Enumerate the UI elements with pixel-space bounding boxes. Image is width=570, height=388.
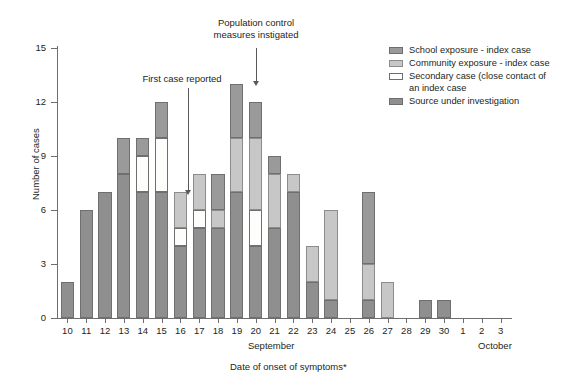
chart-legend: School exposure - index caseCommunity ex… (389, 45, 569, 109)
legend-label: Community exposure - index case (409, 58, 550, 68)
bar-segment-secondary (174, 228, 187, 246)
bar-segment-secondary (136, 156, 149, 192)
bar-26 (362, 192, 375, 318)
x-axis-tick (369, 319, 370, 323)
bar-22 (287, 174, 300, 318)
x-axis-tick (67, 319, 68, 323)
bar-segment-community (362, 264, 375, 300)
bar-segment-source (306, 282, 319, 318)
bar-segment-secondary (155, 138, 168, 192)
bar-segment-source (249, 246, 262, 318)
legend-label: School exposure - index case (409, 45, 531, 55)
bar-segment-source (211, 228, 224, 318)
x-axis-tick (388, 319, 389, 323)
bar-segment-secondary (249, 210, 262, 246)
bar-segment-school (117, 138, 130, 174)
annotation-first-case-line (188, 88, 189, 191)
bar-segment-source (419, 300, 432, 318)
x-axis-tick (425, 319, 426, 323)
bar-15 (155, 102, 168, 318)
bar-segment-school (136, 138, 149, 156)
x-axis-tick (463, 319, 464, 323)
bar-segment-community (174, 192, 187, 228)
bar-segment-source (324, 300, 337, 318)
bar-segment-source (136, 192, 149, 318)
bar-16 (174, 192, 187, 318)
bar-segment-community (287, 174, 300, 192)
legend-swatch-community-icon (389, 60, 403, 67)
x-axis-tick (331, 319, 332, 323)
annotation-pop-control-line2: measures instigated (213, 29, 298, 40)
bar-segment-source (230, 192, 243, 318)
bar-23 (306, 246, 319, 318)
y-axis-tick-label: 6 (6, 204, 46, 215)
legend-swatch-school-icon (389, 47, 403, 54)
x-axis-tick (293, 319, 294, 323)
bar-19 (230, 84, 243, 318)
month-label-september: September (248, 340, 294, 351)
x-axis-title: Date of onset of symptoms* (230, 361, 347, 372)
bar-segment-source (80, 210, 93, 318)
bar-segment-source (174, 246, 187, 318)
x-axis-tick (275, 319, 276, 323)
x-axis-tick (406, 319, 407, 323)
y-axis-tick-label: 3 (6, 258, 46, 269)
x-axis-tick (256, 319, 257, 323)
y-axis-tick (51, 102, 57, 103)
legend-item-secondary[interactable]: Secondary case (close contact ofan index… (389, 71, 569, 94)
x-axis-tick (86, 319, 87, 323)
bar-segment-source (117, 174, 130, 318)
bar-segment-source (437, 300, 450, 318)
bar-27 (381, 282, 394, 318)
bar-segment-source (268, 228, 281, 318)
y-axis-tick-label: 12 (6, 96, 46, 107)
bar-29 (419, 300, 432, 318)
bar-segment-community (211, 210, 224, 228)
annotation-pop-control-line (256, 48, 257, 82)
month-label-october: October (478, 340, 512, 351)
bar-segment-source (155, 192, 168, 318)
annotation-first-case-text: First case reported (122, 73, 242, 85)
bar-20 (249, 102, 262, 318)
y-axis-tick (51, 318, 57, 319)
legend-swatch-secondary-icon (389, 73, 403, 80)
x-axis-tick (105, 319, 106, 323)
bar-segment-source (98, 192, 111, 318)
y-axis-tick (51, 156, 57, 157)
bar-segment-community (324, 210, 337, 300)
bar-segment-community (268, 174, 281, 228)
legend-item-source[interactable]: Source under investigation (389, 96, 569, 108)
y-axis-tick-label: 15 (6, 42, 46, 53)
bar-segment-community (381, 282, 394, 318)
x-axis-tick (237, 319, 238, 323)
x-axis-tick (482, 319, 483, 323)
bar-11 (80, 210, 93, 318)
x-axis-tick (199, 319, 200, 323)
bar-10 (61, 282, 74, 318)
bar-24 (324, 210, 337, 318)
legend-item-community[interactable]: Community exposure - index case (389, 58, 569, 70)
legend-label: Source under investigation (409, 96, 519, 106)
bar-segment-source (287, 192, 300, 318)
bar-segment-school (268, 156, 281, 174)
bar-segment-source (193, 228, 206, 318)
y-axis-title: Number of cases (30, 128, 41, 200)
x-axis-tick (444, 319, 445, 323)
x-axis-tick (143, 319, 144, 323)
legend-item-school[interactable]: School exposure - index case (389, 45, 569, 57)
y-axis-tick (51, 48, 57, 49)
legend-label-continued: an index case (409, 83, 466, 93)
bar-segment-school (211, 174, 224, 210)
bar-segment-community (306, 246, 319, 282)
x-axis-tick (162, 319, 163, 323)
bar-segment-community (193, 174, 206, 210)
y-axis-tick-label: 0 (6, 312, 46, 323)
bar-18 (211, 174, 224, 318)
bar-segment-secondary (193, 210, 206, 228)
epidemic-curve-figure: 03691215 Number of cases 101112131415161… (0, 0, 570, 388)
bar-segment-community (249, 138, 262, 210)
legend-swatch-source-icon (389, 98, 403, 105)
legend-label: Secondary case (close contact of (409, 71, 546, 81)
bar-segment-school (230, 84, 243, 138)
bar-12 (98, 192, 111, 318)
